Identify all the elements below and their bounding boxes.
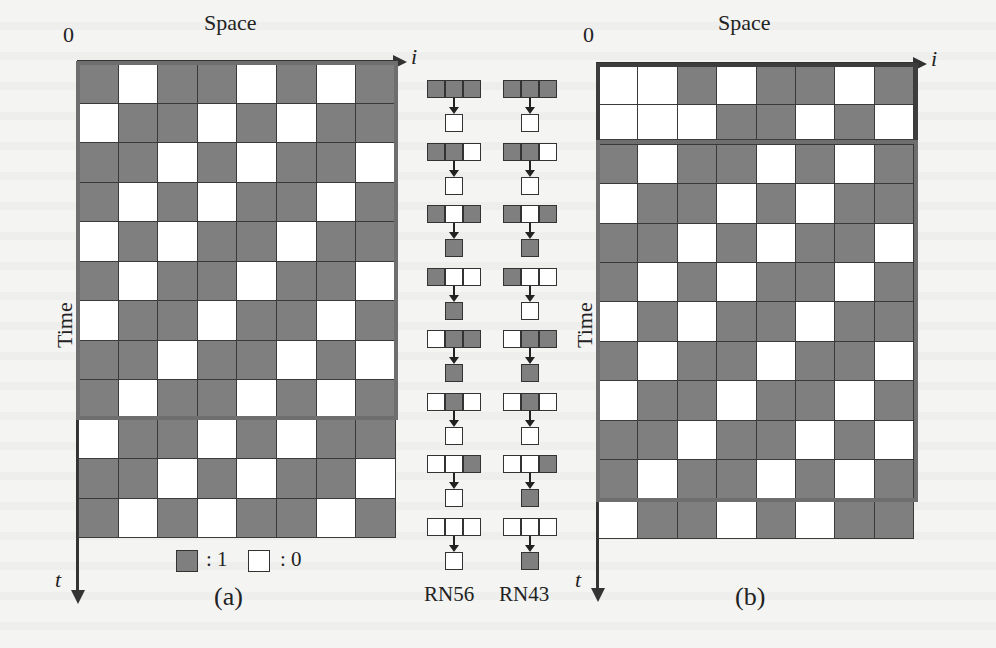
grid-b-cell bbox=[677, 498, 717, 538]
rule-neighborhood-cell bbox=[463, 455, 481, 473]
arrow-head-icon bbox=[525, 420, 535, 427]
rule-neighborhood-cell bbox=[503, 518, 521, 536]
grid-b-cell bbox=[756, 341, 796, 381]
grid-a-cell bbox=[197, 340, 238, 381]
grid-a-cell bbox=[157, 340, 198, 381]
grid-b-cell bbox=[756, 183, 796, 223]
grid-b-cell bbox=[598, 341, 638, 381]
arrow-head-icon bbox=[449, 357, 459, 364]
grid-b-cell bbox=[598, 459, 638, 499]
rule-neighborhood-cell bbox=[445, 205, 463, 223]
grid-a-cell bbox=[197, 261, 238, 302]
rule-neighborhood-cell bbox=[539, 455, 557, 473]
grid-a-cell bbox=[316, 340, 357, 381]
arrow-head-icon bbox=[525, 107, 535, 114]
rule-output-cell bbox=[521, 302, 539, 320]
rule-neighborhood-cell bbox=[503, 393, 521, 411]
grid-b-cell bbox=[795, 262, 835, 302]
rule-neighborhood-cell bbox=[521, 518, 539, 536]
arrow-down-icon bbox=[71, 590, 85, 604]
arrow-head-icon bbox=[449, 170, 459, 177]
grid-a-cell bbox=[78, 142, 119, 183]
grid-a-cell bbox=[197, 142, 238, 183]
grid-a-cell bbox=[316, 142, 357, 183]
rule-output-cell bbox=[445, 552, 463, 570]
grid-a-cell bbox=[236, 221, 277, 262]
grid-b-cell bbox=[598, 262, 638, 302]
grid-a-cell bbox=[197, 103, 238, 144]
arrow-head-icon bbox=[525, 295, 535, 302]
grid-b-cell bbox=[716, 183, 756, 223]
grid-a-cell bbox=[316, 419, 357, 460]
time-label-a: Time bbox=[52, 302, 78, 348]
rule-neighborhood-cell bbox=[445, 455, 463, 473]
arrow-head-icon bbox=[449, 420, 459, 427]
grid-b-cell bbox=[795, 459, 835, 499]
grid-a-cell bbox=[78, 498, 119, 539]
space-label-a: Space bbox=[204, 10, 257, 36]
grid-a-cell bbox=[197, 182, 238, 223]
grid-a-cell bbox=[355, 419, 396, 460]
grid-b-cell bbox=[598, 104, 638, 144]
grid-b-cell bbox=[874, 341, 914, 381]
grid-a-cell bbox=[276, 221, 317, 262]
rule-output-cell bbox=[521, 114, 539, 132]
rule-neighborhood-cell bbox=[521, 268, 539, 286]
grid-a-cell bbox=[118, 182, 159, 223]
grid-a-cell bbox=[118, 63, 159, 104]
grid-b-cell bbox=[716, 104, 756, 144]
grid-a-cell bbox=[316, 103, 357, 144]
arrow-right-icon bbox=[913, 57, 927, 71]
grid-b-cell bbox=[834, 183, 874, 223]
grid-b-cell bbox=[756, 65, 796, 105]
rule-neighborhood-cell bbox=[463, 518, 481, 536]
rule-output-cell bbox=[445, 302, 463, 320]
grid-b-cell bbox=[756, 223, 796, 263]
grid-b-cell bbox=[834, 420, 874, 460]
grid-b-cell bbox=[677, 65, 717, 105]
grid-b-cell bbox=[598, 380, 638, 420]
grid-b-cell bbox=[834, 459, 874, 499]
grid-a-cell bbox=[276, 103, 317, 144]
rule-output-cell bbox=[521, 552, 539, 570]
grid-b-cell bbox=[874, 420, 914, 460]
rule-neighborhood-cell bbox=[445, 268, 463, 286]
time-label-b: Time bbox=[572, 302, 598, 348]
arrow-head-icon bbox=[449, 107, 459, 114]
rule-output-cell bbox=[521, 177, 539, 195]
grid-a-cell bbox=[78, 261, 119, 302]
grid-a-cell bbox=[355, 340, 396, 381]
t-var-label-a: t bbox=[55, 567, 61, 593]
rule-neighborhood-cell bbox=[521, 143, 539, 161]
grid-a-cell bbox=[157, 182, 198, 223]
grid-a-cell bbox=[316, 221, 357, 262]
grid-b-cell bbox=[637, 262, 677, 302]
rule-neighborhood-cell bbox=[503, 205, 521, 223]
grid-a-cell bbox=[157, 63, 198, 104]
grid-a-cell bbox=[157, 419, 198, 460]
rule-neighborhood-cell bbox=[503, 143, 521, 161]
grid-b-cell bbox=[834, 144, 874, 184]
grid-b-cell bbox=[874, 65, 914, 105]
grid-b-cell bbox=[637, 341, 677, 381]
grid-b-cell bbox=[598, 144, 638, 184]
grid-b-cell bbox=[716, 301, 756, 341]
legend-swatch-0 bbox=[248, 550, 270, 572]
grid-a-cell bbox=[355, 458, 396, 499]
rule-neighborhood-cell bbox=[445, 393, 463, 411]
grid-a-cell bbox=[118, 458, 159, 499]
rule-neighborhood-cell bbox=[445, 143, 463, 161]
grid-b-cell bbox=[637, 65, 677, 105]
rule-neighborhood-cell bbox=[539, 330, 557, 348]
rule-neighborhood-cell bbox=[463, 143, 481, 161]
grid-b-cell bbox=[716, 144, 756, 184]
rule-neighborhood-cell bbox=[445, 518, 463, 536]
rule-neighborhood-cell bbox=[521, 80, 539, 98]
grid-a-cell bbox=[276, 458, 317, 499]
arrow-head-icon bbox=[525, 545, 535, 552]
rule-output-cell bbox=[521, 364, 539, 382]
grid-b-cell bbox=[677, 104, 717, 144]
grid-b-cell bbox=[637, 223, 677, 263]
grid-a-cell bbox=[236, 379, 277, 420]
grid-b-cell bbox=[795, 104, 835, 144]
